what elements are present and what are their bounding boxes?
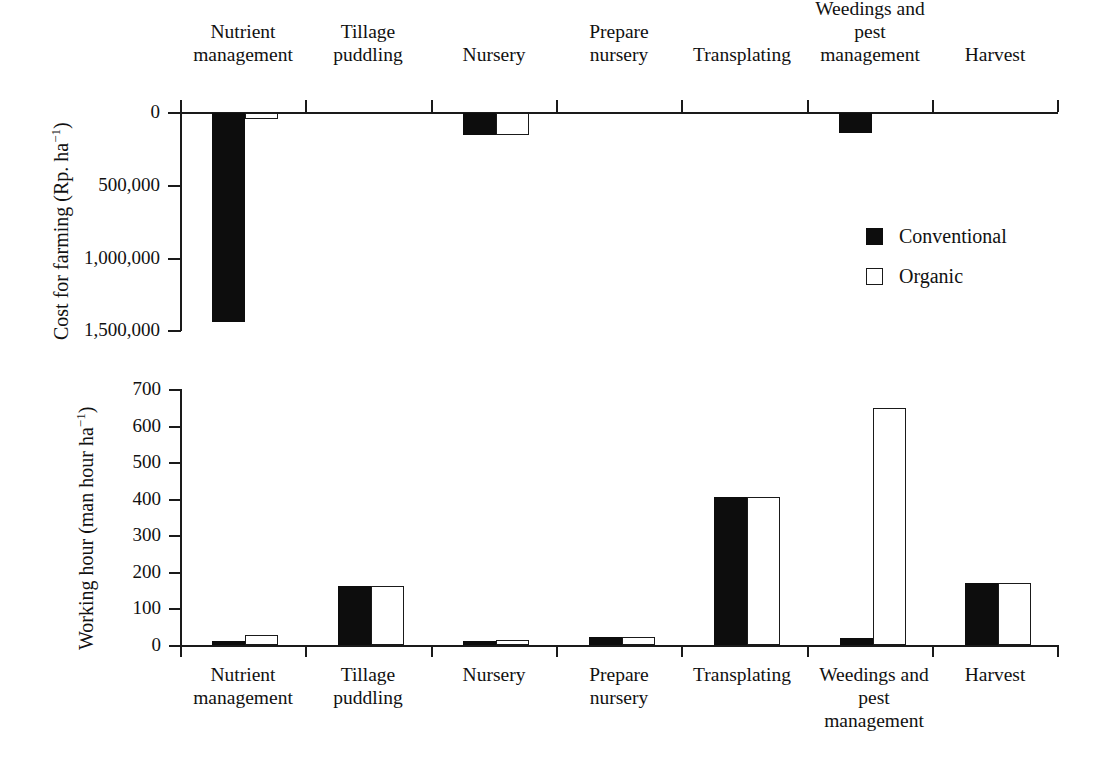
working-hour-x-tick-2 — [431, 645, 433, 657]
working-hour-bar-organic-harvest — [998, 583, 1031, 645]
working-hour-category-label-nutrient-management: Nutrient management — [182, 663, 304, 709]
working-hour-bar-organic-nursery — [496, 640, 529, 645]
working-hour-x-tick-6 — [932, 645, 934, 657]
working-hour-y-tick-label-100: 100 — [100, 597, 161, 618]
working-hour-cat-2-line1: Nursery — [433, 663, 555, 686]
working-hour-y-tick-100 — [169, 608, 181, 610]
working-hour-y-tick-700 — [169, 389, 181, 391]
working-hour-cat-3-line2: nursery — [558, 686, 680, 709]
working-hour-cat-1-line2: puddling — [307, 686, 429, 709]
working-hour-category-label-transplating: Transplating — [676, 663, 808, 686]
working-hour-y-axis-title: Working hour (man hour ha−1) — [73, 407, 98, 650]
working-hour-x-tick-0 — [180, 645, 182, 657]
working-hour-y-tick-500 — [169, 462, 181, 464]
working-hour-y-tick-200 — [169, 572, 181, 574]
figure-two-panel-bar-charts: Cost for farming (Rp. ha−1) 0 500,000 1,… — [0, 0, 1109, 774]
working-hour-bar-organic-prepare-nursery — [622, 637, 655, 645]
working-hour-bar-organic-tillage-puddling — [371, 586, 404, 645]
working-hour-panel: Working hour (man hour ha−1) 700 600 500… — [0, 0, 1109, 774]
working-hour-cat-3-line1: Prepare — [558, 663, 680, 686]
working-hour-bar-conventional-nursery — [463, 641, 496, 645]
working-hour-cat-5-line3: management — [806, 709, 942, 732]
working-hour-y-tick-label-300: 300 — [100, 524, 161, 545]
working-hour-category-label-harvest: Harvest — [934, 663, 1056, 686]
working-hour-cat-4-line1: Transplating — [676, 663, 808, 686]
working-hour-y-axis-title-text: Working hour (man hour ha — [75, 427, 97, 650]
working-hour-y-tick-label-500: 500 — [100, 451, 161, 472]
working-hour-cat-1-line1: Tillage — [307, 663, 429, 686]
working-hour-y-tick-label-700: 700 — [100, 378, 161, 399]
working-hour-bar-conventional-nutrient-management — [212, 641, 245, 645]
working-hour-category-label-tillage-puddling: Tillage puddling — [307, 663, 429, 709]
working-hour-x-tick-4 — [681, 645, 683, 657]
working-hour-x-tick-7 — [1057, 645, 1059, 657]
working-hour-x-tick-1 — [305, 645, 307, 657]
working-hour-bar-conventional-transplating — [714, 497, 747, 645]
working-hour-y-axis-title-paren: ) — [75, 407, 97, 414]
working-hour-category-label-nursery: Nursery — [433, 663, 555, 686]
working-hour-y-axis-title-exponent: −1 — [73, 413, 88, 427]
working-hour-category-label-prepare-nursery: Prepare nursery — [558, 663, 680, 709]
working-hour-x-tick-3 — [556, 645, 558, 657]
working-hour-cat-0-line2: management — [182, 686, 304, 709]
working-hour-cat-0-line1: Nutrient — [182, 663, 304, 686]
working-hour-cat-5-line1: Weedings and — [806, 663, 942, 686]
working-hour-y-tick-label-600: 600 — [100, 415, 161, 436]
working-hour-bar-conventional-weedings-pest-management — [840, 638, 873, 645]
working-hour-cat-6-line1: Harvest — [934, 663, 1056, 686]
working-hour-y-tick-300 — [169, 535, 181, 537]
working-hour-bar-organic-nutrient-management — [245, 635, 278, 645]
working-hour-bar-organic-transplating — [747, 497, 780, 645]
working-hour-x-tick-5 — [807, 645, 809, 657]
working-hour-y-tick-label-0: 0 — [100, 634, 161, 655]
working-hour-y-tick-400 — [169, 499, 181, 501]
working-hour-y-tick-label-200: 200 — [100, 561, 161, 582]
working-hour-bar-conventional-tillage-puddling — [338, 586, 371, 645]
working-hour-y-tick-600 — [169, 426, 181, 428]
working-hour-bar-organic-weedings-pest-management — [873, 408, 906, 645]
working-hour-y-tick-label-400: 400 — [100, 488, 161, 509]
working-hour-cat-5-line2: pest — [806, 686, 942, 709]
working-hour-bar-conventional-harvest — [965, 583, 998, 645]
working-hour-x-axis-spine — [180, 645, 1058, 647]
working-hour-bar-conventional-prepare-nursery — [589, 637, 622, 645]
working-hour-category-label-weedings-pest-management: Weedings and pest management — [806, 663, 942, 732]
